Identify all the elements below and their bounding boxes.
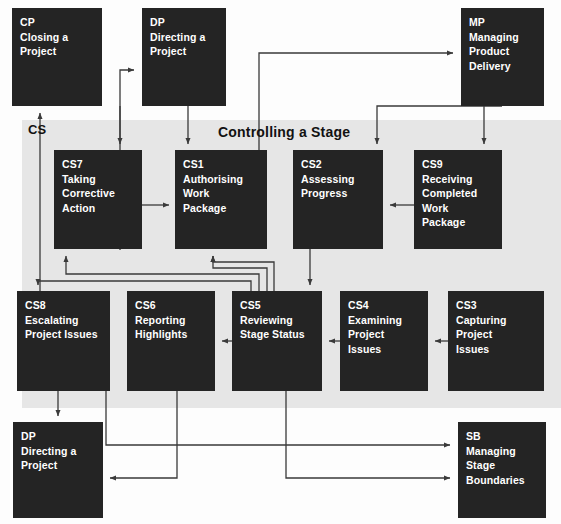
node-code: CS5 <box>240 298 322 313</box>
node-label-line: Issues <box>348 342 428 357</box>
node-code: CS4 <box>348 298 428 313</box>
process-node-cs3[interactable]: CS3CapturingProjectIssues <box>448 291 544 391</box>
node-code: CS9 <box>422 157 502 172</box>
node-code: CS8 <box>25 298 110 313</box>
node-label-line: Project <box>348 327 428 342</box>
node-label-line: Project <box>150 44 226 59</box>
process-node-cs7[interactable]: CS7TakingCorrectiveAction <box>54 150 142 249</box>
process-node-cs6[interactable]: CS6ReportingHighlights <box>127 291 215 391</box>
node-label-line: Capturing <box>456 313 544 328</box>
node-code: DP <box>21 429 103 444</box>
band-title: Controlling a Stage <box>218 124 350 140</box>
node-label-line: Stage Status <box>240 327 322 342</box>
node-label-line: Action <box>62 201 142 216</box>
node-label-line: Package <box>183 201 267 216</box>
node-code: SB <box>466 429 546 444</box>
node-code: CS7 <box>62 157 142 172</box>
node-label-line: Examining <box>348 313 428 328</box>
node-label-line: Highlights <box>135 327 215 342</box>
node-label-line: Work <box>183 186 267 201</box>
node-label-line: Assessing <box>301 172 383 187</box>
node-label-line: Project <box>456 327 544 342</box>
node-label-line: Managing <box>469 30 544 45</box>
process-node-cs1[interactable]: CS1AuthorisingWorkPackage <box>175 150 267 249</box>
node-label-line: Package <box>422 215 502 230</box>
node-label-line: Project Issues <box>25 327 110 342</box>
node-label-line: Authorising <box>183 172 267 187</box>
node-label-line: Completed <box>422 186 502 201</box>
node-code: CS2 <box>301 157 383 172</box>
node-label-line: Boundaries <box>466 473 546 488</box>
node-label-line: Directing a <box>21 444 103 459</box>
node-code: DP <box>150 15 226 30</box>
node-code: CS3 <box>456 298 544 313</box>
node-label-line: Receiving <box>422 172 502 187</box>
node-label-line: Project <box>20 44 102 59</box>
node-label-line: Stage <box>466 458 546 473</box>
process-node-cp[interactable]: CPClosing aProject <box>12 8 102 106</box>
node-label-line: Directing a <box>150 30 226 45</box>
process-node-cs2[interactable]: CS2AssessingProgress <box>293 150 383 249</box>
node-label-line: Closing a <box>20 30 102 45</box>
node-label-line: Issues <box>456 342 544 357</box>
process-node-sb[interactable]: SBManagingStageBoundaries <box>458 422 546 518</box>
node-label-line: Managing <box>466 444 546 459</box>
node-label-line: Work <box>422 201 502 216</box>
node-label-line: Corrective <box>62 186 142 201</box>
node-code: CP <box>20 15 102 30</box>
process-node-cs9[interactable]: CS9ReceivingCompletedWorkPackage <box>414 150 502 249</box>
process-node-cs4[interactable]: CS4ExaminingProjectIssues <box>340 291 428 391</box>
node-label-line: Reviewing <box>240 313 322 328</box>
node-label-line: Escalating <box>25 313 110 328</box>
node-label-line: Reporting <box>135 313 215 328</box>
process-node-dpt[interactable]: DPDirecting aProject <box>142 8 226 106</box>
node-label-line: Progress <box>301 186 383 201</box>
band-label: CS <box>28 122 46 137</box>
process-node-cs8[interactable]: CS8EscalatingProject Issues <box>17 291 110 391</box>
process-node-mp[interactable]: MPManagingProductDelivery <box>461 8 544 106</box>
node-code: MP <box>469 15 544 30</box>
node-label-line: Taking <box>62 172 142 187</box>
controlling-a-stage-diagram: CPClosing aProjectDPDirecting aProjectMP… <box>0 0 561 524</box>
process-node-cs5[interactable]: CS5ReviewingStage Status <box>232 291 322 391</box>
process-node-dpb[interactable]: DPDirecting aProject <box>13 422 103 518</box>
node-code: CS1 <box>183 157 267 172</box>
node-code: CS6 <box>135 298 215 313</box>
node-label-line: Project <box>21 458 103 473</box>
node-label-line: Delivery <box>469 59 544 74</box>
node-label-line: Product <box>469 44 544 59</box>
